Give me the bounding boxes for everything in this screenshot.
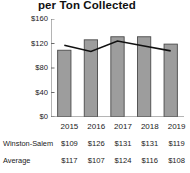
chart-figure: per Ton Collected $160 $120 $80 $40 $0 2… (0, 0, 190, 173)
table-row-years: 2015 2016 2017 2018 2019 (0, 118, 190, 135)
data-table: 2015 2016 2017 2018 2019 Winston-Salem $… (0, 118, 190, 169)
bar-2017 (111, 37, 124, 117)
value-cell: $117 (56, 156, 83, 165)
value-cell: $119 (163, 139, 190, 148)
bar-2015 (58, 50, 71, 117)
y-tick-40: $40 (14, 89, 48, 97)
table-row: Average $117 $107 $124 $116 $108 (0, 152, 190, 169)
y-tick-80: $80 (14, 64, 48, 72)
bar-2019 (164, 44, 177, 117)
value-cell: $108 (163, 156, 190, 165)
y-tick-120: $120 (14, 40, 48, 48)
value-cell: $126 (83, 139, 110, 148)
year-cell: 2019 (163, 122, 190, 131)
year-row-cells: 2015 2016 2017 2018 2019 (56, 122, 190, 131)
y-tick-marks (51, 19, 55, 117)
plot-area (51, 19, 184, 117)
value-cell: $116 (136, 156, 163, 165)
value-cell: $131 (110, 139, 137, 148)
year-cell: 2016 (83, 122, 110, 131)
winston-salem-cells: $109 $126 $131 $131 $119 (56, 139, 190, 148)
year-cell: 2018 (136, 122, 163, 131)
series-label-winston-salem: Winston-Salem (0, 139, 56, 148)
value-cell: $124 (110, 156, 137, 165)
bar-2018 (137, 37, 150, 117)
series-label-average: Average (0, 156, 56, 165)
value-cell: $109 (56, 139, 83, 148)
year-cell: 2015 (56, 122, 83, 131)
plot-svg (51, 19, 184, 117)
y-tick-160: $160 (14, 15, 48, 23)
average-cells: $117 $107 $124 $116 $108 (56, 156, 190, 165)
table-row: Winston-Salem $109 $126 $131 $131 $119 (0, 135, 190, 152)
y-axis-tick-labels: $160 $120 $80 $40 $0 (12, 19, 48, 117)
value-cell: $107 (83, 156, 110, 165)
chart-title: per Ton Collected (38, 0, 188, 11)
year-cell: 2017 (110, 122, 137, 131)
value-cell: $131 (136, 139, 163, 148)
